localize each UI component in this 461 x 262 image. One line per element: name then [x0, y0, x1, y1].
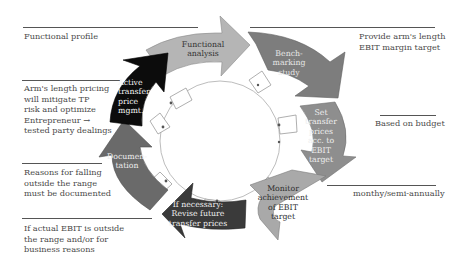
label-revise-transfer-prices: If necessary: Revise future transfer pri… [162, 200, 234, 228]
label-monitor-achievement: Monitor achievement of EBIT target [254, 184, 312, 222]
label-benchmarking-study: Bench- marking study [264, 49, 314, 77]
label-documentation: Documen- tation [102, 152, 152, 171]
label-functional-analysis: Functional analysis [178, 40, 228, 59]
label-active-transfer-price-mgmt: Active transfer price mgmt. [118, 78, 154, 116]
label-set-transfer-prices: Set transfer prices acc. to EBIT target [304, 108, 338, 164]
